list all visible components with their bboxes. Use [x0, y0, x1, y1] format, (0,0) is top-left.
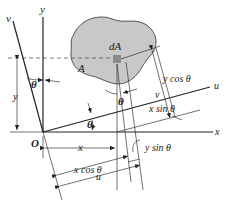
label-x-cos: x cos θ — [73, 164, 102, 175]
origin-perp-line — [43, 132, 62, 200]
area-rotation-diagram: v y u x O A dA θ θ θ y x v u y cos θ x s… — [0, 0, 226, 205]
v-axis — [13, 21, 43, 132]
u-axis — [43, 87, 210, 132]
label-area: A — [77, 62, 85, 74]
label-theta-top: θ — [31, 78, 37, 90]
label-y-cos: y cos θ — [162, 73, 191, 84]
theta-top-tick — [45, 80, 60, 82]
label-x-sin: x sin θ — [148, 103, 175, 114]
label-v-dim: v — [155, 89, 160, 100]
label-element: dA — [109, 40, 122, 52]
element-dA — [113, 55, 121, 63]
label-v-axis: v — [6, 12, 11, 24]
label-x-dim: x — [77, 141, 83, 153]
label-origin: O — [31, 137, 39, 149]
theta-bottom-tick — [88, 103, 91, 113]
label-y-dim: y — [12, 90, 18, 102]
xsin-dim-line — [172, 116, 182, 120]
label-theta-center: θ — [118, 95, 124, 107]
label-u-axis: u — [214, 80, 219, 91]
label-y-axis: y — [39, 3, 45, 15]
label-y-sin: y sin θ — [144, 142, 171, 153]
label-theta-bottom: θ — [87, 118, 93, 130]
theta-arc-center — [105, 90, 117, 94]
label-x-axis: x — [214, 126, 220, 137]
ysin-dim-line — [128, 159, 140, 162]
